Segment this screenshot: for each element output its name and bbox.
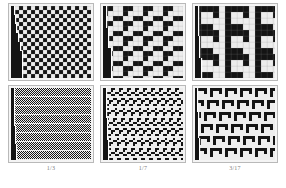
panel-top-middle[interactable] [100,3,186,81]
panel-row-top [0,0,286,81]
panel-top-right-canvas [195,6,275,78]
pattern-canvas-bottom-right [195,88,275,160]
panel-bottom-middle[interactable] [100,85,186,163]
panel-bottom-left[interactable] [8,85,94,163]
pattern-canvas-bottom-middle [103,88,183,160]
panel-row-bottom [0,81,286,163]
pattern-canvas-top-middle [103,6,183,78]
caption-middle: 1/7 [100,164,186,172]
pattern-figure: 1/3 1/7 3/17 [0,0,286,188]
panel-bottom-middle-canvas [103,88,183,160]
panel-bottom-left-canvas [11,88,91,160]
caption-left: 1/3 [8,164,94,172]
panel-bottom-right-canvas [195,88,275,160]
caption-row: 1/3 1/7 3/17 [0,163,286,172]
pattern-canvas-top-left [11,6,91,78]
panel-top-left[interactable] [8,3,94,81]
pattern-canvas-top-right [195,6,275,78]
panel-top-left-canvas [11,6,91,78]
panel-top-right[interactable] [192,3,278,81]
caption-right: 3/17 [192,164,278,172]
pattern-canvas-bottom-left [11,88,91,160]
panel-top-middle-canvas [103,6,183,78]
panel-bottom-right[interactable] [192,85,278,163]
